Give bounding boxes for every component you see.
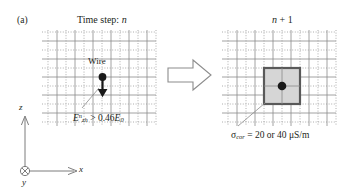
z-axis-label: z bbox=[19, 103, 23, 112]
figure-svg bbox=[0, 0, 360, 192]
block-arrow-right-icon bbox=[168, 60, 211, 90]
right-panel-header: n + 1 bbox=[272, 15, 293, 25]
threshold-reference-subscript: 0 bbox=[120, 116, 123, 123]
wire-label: Wire bbox=[88, 57, 106, 66]
threshold-leader-line bbox=[82, 88, 99, 108]
figure-container: (a) Time step: n n + 1 Wire Enzh > 0.46E… bbox=[0, 0, 360, 192]
conductivity-formula: σcor = 20 or 40 μS/m bbox=[231, 131, 309, 141]
y-axis-label: y bbox=[22, 178, 26, 187]
threshold-relation: > 0.46 bbox=[88, 113, 115, 123]
conductivity-relation: = 20 or 40 μS/m bbox=[245, 130, 310, 140]
wire-marker bbox=[99, 73, 107, 95]
corona-cell-node bbox=[278, 82, 287, 91]
x-axis-label: x bbox=[79, 165, 83, 174]
left-panel-header: Time step: n bbox=[77, 15, 127, 25]
conductivity-leader-line bbox=[238, 103, 265, 126]
y-axis-into-page-icon bbox=[20, 166, 29, 175]
threshold-formula: Enzh > 0.46E0 bbox=[73, 113, 124, 124]
panel-label: (a) bbox=[17, 16, 28, 26]
axis-triad bbox=[20, 116, 77, 176]
left-header-prefix: Time step: bbox=[77, 14, 122, 25]
highlighted-corona-cell bbox=[264, 68, 300, 104]
right-header-suffix: + 1 bbox=[277, 14, 293, 25]
conductivity-subscript: cor bbox=[236, 133, 245, 140]
left-header-symbol: n bbox=[122, 14, 127, 25]
